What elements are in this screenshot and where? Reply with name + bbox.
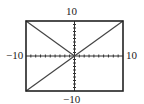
graph-window [0,0,144,104]
series-line-1 [26,21,75,56]
